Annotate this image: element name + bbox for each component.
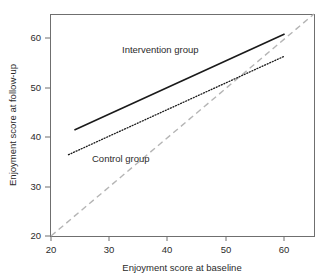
y-tick-label-4: 60 — [30, 32, 41, 43]
series-control-group — [69, 56, 285, 155]
x-tick-label-2: 40 — [162, 244, 173, 255]
x-tick-label-0: 20 — [46, 244, 57, 255]
x-tick-label-4: 60 — [279, 244, 290, 255]
enjoyment-score-chart: 20 30 40 50 60 20 30 40 50 60 Enjoyment … — [0, 0, 329, 279]
x-tick-label-1: 30 — [104, 244, 115, 255]
annotation-control-group: Control group — [92, 153, 150, 164]
x-axis-title: Enjoyment score at baseline — [122, 262, 241, 273]
annotation-intervention-group: Intervention group — [122, 44, 199, 55]
x-tick-label-3: 50 — [221, 244, 232, 255]
y-tick-label-0: 20 — [30, 230, 41, 241]
y-tick-label-1: 30 — [30, 181, 41, 192]
y-axis-title: Enjoyment score at follow-up — [7, 64, 18, 186]
y-tick-label-3: 50 — [30, 82, 41, 93]
y-tick-label-2: 40 — [30, 131, 41, 142]
